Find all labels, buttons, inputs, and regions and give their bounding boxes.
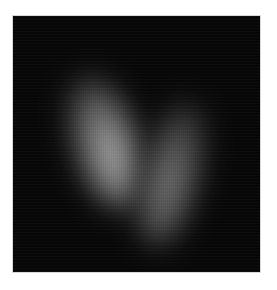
image-frame — [13, 16, 260, 272]
